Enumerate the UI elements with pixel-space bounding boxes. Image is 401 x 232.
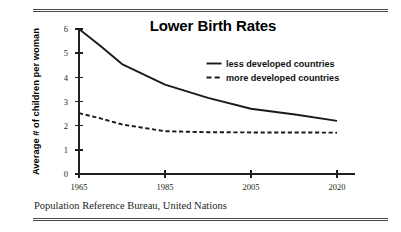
chart-plot-area: 01234561965198520052020 — [0, 0, 401, 232]
y-axis-tick-label: 2 — [64, 121, 68, 131]
x-axis-tick-label: 1985 — [157, 182, 174, 192]
bottom-double-rule — [33, 218, 388, 221]
x-axis-tick-label: 2005 — [243, 182, 260, 192]
y-axis-tick-label: 0 — [64, 169, 68, 179]
legend-label-less-developed: less developed countries — [226, 59, 335, 69]
y-axis-title: Average # of children per woman — [30, 22, 41, 182]
series-line-dashed — [79, 113, 337, 133]
chart-figure: 01234561965198520052020 Lower Birth Rate… — [0, 0, 401, 232]
source-caption: Population Reference Bureau, United Nati… — [34, 200, 227, 211]
y-axis-tick-label: 3 — [64, 97, 68, 107]
legend-label-more-developed: more developed countries — [226, 73, 339, 83]
y-axis-tick-label: 4 — [64, 73, 69, 83]
x-axis-tick-label: 2020 — [329, 182, 346, 192]
legend-item-less-developed: less developed countries — [206, 57, 339, 70]
chart-title: Lower Birth Rates — [118, 17, 308, 34]
legend-dashed-line-icon — [206, 73, 222, 82]
chart-legend: less developed countries more developed … — [206, 57, 339, 85]
x-axis-tick-label: 1965 — [71, 182, 88, 192]
y-axis-tick-label: 1 — [64, 145, 68, 155]
y-axis-tick-label: 6 — [64, 24, 68, 34]
y-axis-tick-label: 5 — [64, 48, 68, 58]
chart-axes — [75, 28, 355, 178]
legend-item-more-developed: more developed countries — [206, 71, 339, 84]
legend-solid-line-icon — [206, 59, 222, 68]
